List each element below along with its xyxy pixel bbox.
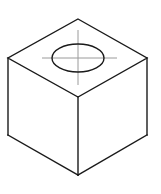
drawing-svg (0, 0, 161, 194)
isometric-cube-drawing (0, 0, 161, 194)
